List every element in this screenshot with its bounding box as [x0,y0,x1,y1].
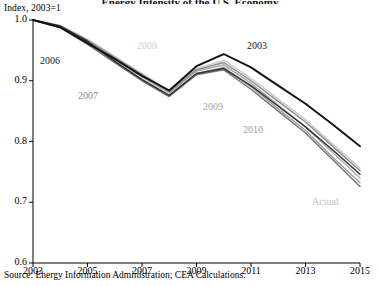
series-label-2003: 2003 [247,40,267,51]
series-label-2010: 2010 [243,124,263,135]
series-label-2006: 2006 [40,55,60,66]
x-tick-label: 2013 [286,265,326,276]
series-label-2007: 2007 [78,90,98,101]
y-tick-label: 0.7 [3,195,27,206]
series-label-2008: 2008 [137,40,157,51]
y-axis-unit-label: Index, 2003=1 [4,3,61,13]
y-tick-label: 0.9 [3,74,27,85]
series-label-actual: Actual [312,196,339,207]
figure-energy-intensity: Energy Intensity of the U.S. Economy Ind… [0,0,380,286]
plot-area [33,20,360,263]
y-tick-label: 1.0 [3,13,27,24]
series-line-actual [33,20,360,186]
x-tick-label: 2015 [340,265,380,276]
series-label-2009: 2009 [203,101,223,112]
line-chart-svg [33,20,360,263]
y-tick-label: 0.8 [3,135,27,146]
series-line-2010 [33,20,360,183]
axis-spines [33,20,360,263]
source-note: Source: Energy Information Administratio… [4,270,246,280]
